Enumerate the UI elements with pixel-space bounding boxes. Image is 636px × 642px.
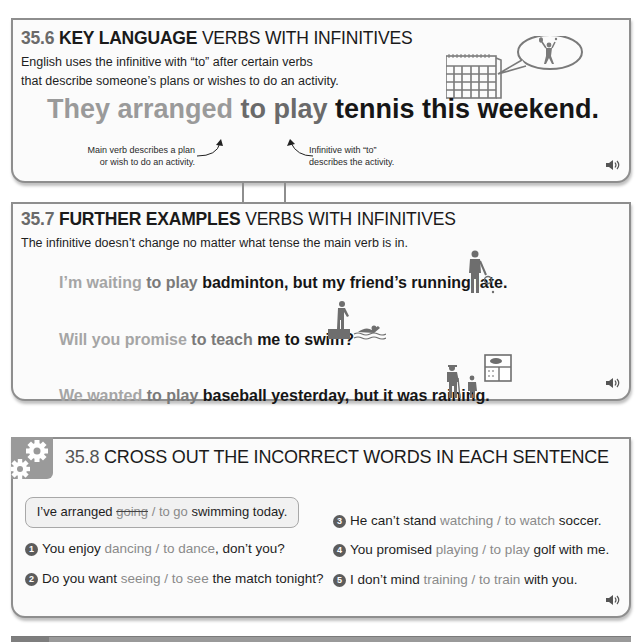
section-number: 35.6 — [21, 28, 54, 48]
example-sentence: Will you promise to teach me to swim? — [59, 331, 354, 349]
arrow-icon — [195, 138, 229, 160]
option-separator: / — [493, 513, 504, 528]
exercise-question: 4You promised playing / to play golf wit… — [333, 542, 609, 557]
section-topic: VERBS WITH INFINITIVES — [245, 209, 455, 229]
panel-connector — [242, 182, 244, 204]
section-number: 35.8 — [65, 447, 99, 467]
question-number: 5 — [333, 574, 346, 587]
main-verb: I’m waiting — [59, 274, 146, 291]
option-2[interactable]: to watch — [505, 513, 555, 528]
example-text: I’ve arranged — [37, 504, 117, 519]
question-text: You enjoy — [42, 541, 105, 556]
swimming-lesson-icon — [328, 301, 386, 341]
section-number: 35.7 — [21, 209, 54, 229]
main-verb: We wanted — [59, 387, 147, 404]
sentence-rest: tennis this weekend. — [335, 94, 599, 124]
question-text: He can’t stand — [350, 513, 440, 528]
speaker-icon[interactable] — [605, 594, 621, 606]
section-title: 35.8 CROSS OUT THE INCORRECT WORDS IN EA… — [65, 447, 609, 468]
crossed-out-option: going — [116, 504, 148, 519]
annotation-line: describes the activity. — [309, 157, 439, 169]
main-verb: They arranged — [47, 94, 241, 124]
question-number: 4 — [333, 544, 346, 557]
question-text: Do you want — [42, 571, 121, 586]
annotation-line: Main verb describes a plan — [63, 145, 195, 157]
exercise-instruction: CROSS OUT THE INCORRECT WORDS IN EACH SE… — [104, 447, 609, 467]
option-separator: / — [148, 504, 159, 519]
option-1[interactable]: seeing — [121, 571, 161, 586]
correct-option: to go — [159, 504, 188, 519]
exercise-badge — [11, 437, 53, 479]
section-keyword: FURTHER EXAMPLES — [59, 209, 241, 229]
gears-icon — [11, 437, 53, 479]
section-title: 35.6 KEY LANGUAGE VERBS WITH INFINITIVES — [21, 28, 412, 49]
speaker-icon[interactable] — [605, 159, 621, 171]
next-section-header — [11, 636, 631, 642]
section-keyword: KEY LANGUAGE — [59, 28, 197, 48]
option-2[interactable]: to see — [172, 571, 209, 586]
option-separator: / — [479, 542, 490, 557]
option-separator: / — [152, 541, 163, 556]
badminton-player-icon — [465, 250, 495, 296]
option-separator: / — [161, 571, 172, 586]
option-separator: / — [468, 572, 479, 587]
question-text: golf with me. — [530, 542, 610, 557]
option-1[interactable]: watching — [440, 513, 493, 528]
key-language-panel: 35.6 KEY LANGUAGE VERBS WITH INFINITIVES… — [11, 18, 631, 183]
annotation-line: or wish to do an activity. — [63, 157, 195, 169]
option-1[interactable]: training — [424, 572, 468, 587]
worked-example: I’ve arranged going / to go swimming tod… — [25, 497, 299, 528]
option-1[interactable]: playing — [436, 542, 479, 557]
section-intro: The infinitive doesn’t change no matter … — [21, 234, 408, 253]
question-number: 3 — [333, 515, 346, 528]
question-text: the match tonight? — [209, 571, 324, 586]
example-sentence: I’m waiting to play badminton, but my fr… — [59, 274, 507, 292]
question-number: 1 — [25, 543, 38, 556]
option-1[interactable]: dancing — [105, 541, 152, 556]
baseball-rain-icon — [443, 354, 513, 400]
exercise-question: 1You enjoy dancing / to dance, don’t you… — [25, 541, 285, 556]
intro-line: English uses the infinitive with “to” af… — [21, 53, 339, 72]
exercise-question: 2Do you want seeing / to see the match t… — [25, 571, 323, 586]
exercise-question: 5I don’t mind training / to train with y… — [333, 572, 577, 587]
infinitive: to play — [146, 274, 202, 291]
question-text: soccer. — [555, 513, 602, 528]
main-verb-annotation: Main verb describes a plan or wish to do… — [63, 145, 195, 168]
question-text: with you. — [520, 572, 577, 587]
option-2[interactable]: to play — [490, 542, 530, 557]
intro-line: that describe someone’s plans or wishes … — [21, 72, 339, 91]
main-verb: Will you promise — [59, 331, 191, 348]
infinitive: to play — [240, 94, 335, 124]
infinitive: to play — [147, 387, 203, 404]
annotation-line: Infinitive with “to” — [309, 145, 439, 157]
question-number: 2 — [25, 573, 38, 586]
example-text: swimming today. — [188, 504, 287, 519]
option-2[interactable]: to dance — [163, 541, 215, 556]
question-text: You promised — [350, 542, 436, 557]
section-intro: English uses the infinitive with “to” af… — [21, 53, 339, 91]
infinitive-annotation: Infinitive with “to” describes the activ… — [309, 145, 439, 168]
infinitive: to teach — [191, 331, 257, 348]
example-sentence: We wanted to play baseball yesterday, bu… — [59, 387, 490, 405]
option-2[interactable]: to train — [479, 572, 520, 587]
section-topic: VERBS WITH INFINITIVES — [202, 28, 412, 48]
question-text: I don’t mind — [350, 572, 424, 587]
further-examples-panel: 35.7 FURTHER EXAMPLES VERBS WITH INFINIT… — [11, 202, 631, 401]
exercise-question: 3He can’t stand watching / to watch socc… — [333, 513, 601, 528]
sentence-rest: badminton, but my friend’s running late. — [202, 274, 507, 291]
speaker-icon[interactable] — [605, 377, 621, 389]
key-example-sentence: They arranged to play tennis this weeken… — [13, 94, 629, 125]
section-title: 35.7 FURTHER EXAMPLES VERBS WITH INFINIT… — [21, 209, 456, 230]
panel-connector — [284, 182, 286, 204]
question-text: , don’t you? — [215, 541, 285, 556]
next-section-badge — [11, 637, 49, 642]
exercise-panel: 35.8 CROSS OUT THE INCORRECT WORDS IN EA… — [11, 437, 631, 618]
